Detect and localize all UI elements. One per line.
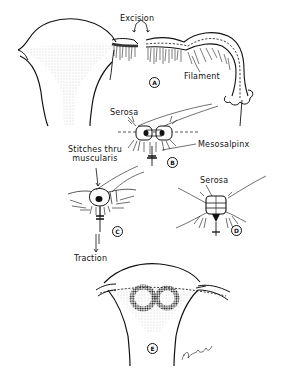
filament-label: Filament <box>184 72 220 81</box>
panel-d-drawing <box>176 176 266 236</box>
excision-label: Excision <box>120 14 154 23</box>
mesosalpinx-label: Mesosalpinx <box>198 140 250 149</box>
surgical-illustration: Excision Filament Serosa Mesosalpinx Sti… <box>0 0 282 376</box>
panel-c-drawing <box>68 166 144 252</box>
stitches-label-line1: Stitches thru <box>60 145 130 154</box>
panel-badge-e: E <box>147 343 158 354</box>
panel-e-drawing <box>96 264 230 366</box>
panel-badge-b: B <box>167 157 178 168</box>
traction-label: Traction <box>74 254 107 263</box>
serosa-label-d: Serosa <box>200 176 228 185</box>
panel-badge-d: D <box>231 225 242 236</box>
serosa-label-b: Serosa <box>110 108 138 117</box>
illustration-drawing <box>0 0 282 376</box>
stitches-label-line2: muscularis <box>60 154 130 163</box>
panel-badge-a: A <box>149 77 160 88</box>
panel-badge-c: C <box>112 226 123 237</box>
